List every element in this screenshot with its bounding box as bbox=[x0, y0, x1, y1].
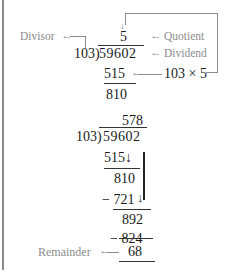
arrow-left-icon: ← bbox=[99, 245, 111, 257]
divisor-connector-h bbox=[70, 36, 86, 37]
connector-top bbox=[125, 13, 218, 14]
division-bar bbox=[99, 127, 147, 128]
remainder-label: Remainder bbox=[38, 246, 91, 258]
step-2-result: 892 bbox=[122, 213, 143, 227]
connector-down bbox=[125, 13, 126, 25]
dividend-value: 59602 bbox=[103, 130, 141, 144]
divisor-value: 103) bbox=[74, 47, 100, 61]
result-value: 810 bbox=[106, 88, 127, 102]
step-1-subtract: 515↓ bbox=[104, 151, 132, 165]
subtract-value: 515 bbox=[104, 67, 125, 81]
divisor-label: Divisor bbox=[20, 31, 55, 43]
step-2-line bbox=[113, 209, 151, 210]
connector-right bbox=[217, 13, 218, 72]
frame-border bbox=[2, 0, 4, 270]
step-1-line bbox=[104, 168, 140, 169]
step-2-subtract: − 721 bbox=[102, 193, 134, 207]
divisor-value: 103) bbox=[76, 130, 102, 144]
step-3-line bbox=[119, 238, 153, 239]
arrow-down-icon: ↓ bbox=[137, 191, 144, 204]
step-1-result: 810 bbox=[114, 172, 135, 186]
product-label: 103 × 5 bbox=[164, 67, 207, 81]
dividend-label: Dividend bbox=[164, 48, 207, 60]
quotient-label: Quotient bbox=[164, 31, 204, 43]
arrow-left-icon: ← bbox=[150, 30, 162, 42]
dividend-value: 59602 bbox=[99, 47, 137, 61]
quotient-value: 5 bbox=[120, 30, 127, 44]
subtract-line bbox=[104, 83, 136, 84]
remainder-value: 68 bbox=[128, 245, 142, 259]
connector-bottom bbox=[206, 72, 218, 73]
quotient-value: 578 bbox=[122, 114, 143, 128]
arrow-left-icon: ← bbox=[150, 47, 162, 59]
remainder-line bbox=[119, 261, 155, 262]
arrow-shaft bbox=[107, 252, 119, 253]
arrow-left-icon: ← bbox=[131, 67, 143, 79]
